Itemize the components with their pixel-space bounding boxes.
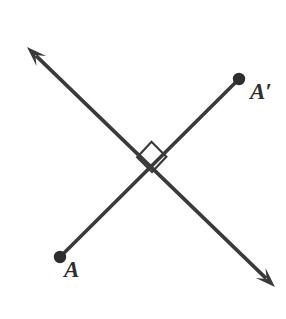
point-A-label: A	[64, 258, 79, 281]
point-A-prime-dot	[233, 73, 245, 85]
geometry-canvas	[0, 0, 286, 319]
geometry-figure: A A′	[0, 0, 286, 319]
point-A-prime-label: A′	[250, 80, 272, 103]
